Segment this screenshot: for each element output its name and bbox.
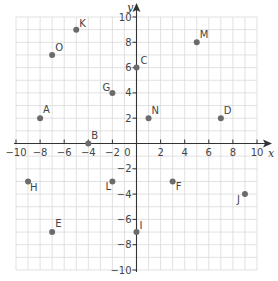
x-tick-label: −10 xyxy=(5,147,26,158)
point-f: F xyxy=(170,178,182,192)
point-label: B xyxy=(91,130,98,141)
point-o: O xyxy=(49,42,63,58)
point-i: I xyxy=(134,220,143,235)
point-label: L xyxy=(105,181,111,192)
point-marker-icon xyxy=(134,65,140,71)
y-tick-label: 10 xyxy=(119,12,132,23)
point-marker-icon xyxy=(109,90,115,96)
point-label: J xyxy=(236,194,240,205)
point-label: A xyxy=(43,104,50,115)
point-n: N xyxy=(146,105,159,121)
point-label: C xyxy=(141,55,148,66)
x-tick-label: −6 xyxy=(57,147,72,158)
y-tick-label: 4 xyxy=(125,87,131,98)
point-marker-icon xyxy=(49,229,55,235)
point-label: M xyxy=(200,29,209,40)
point-label: K xyxy=(79,18,86,29)
y-tick-label: −2 xyxy=(117,163,132,174)
point-marker-icon xyxy=(85,141,91,147)
point-c: C xyxy=(134,55,148,71)
x-tick-label: 4 xyxy=(182,147,188,158)
coordinate-plane: x y −10−8−6−4−20246810−10−8−6−4−2246810 … xyxy=(0,0,278,281)
point-h: H xyxy=(25,178,38,193)
point-marker-icon xyxy=(242,191,248,197)
point-m: M xyxy=(194,29,209,45)
point-l: L xyxy=(105,178,115,192)
x-tick-label: 10 xyxy=(251,147,264,158)
point-label: N xyxy=(152,105,159,116)
x-tick-label: 8 xyxy=(230,147,236,158)
point-g: G xyxy=(102,82,115,96)
point-marker-icon xyxy=(37,115,43,121)
point-label: F xyxy=(176,181,182,192)
x-tick-label: 0 xyxy=(124,147,130,158)
x-tick-label: 2 xyxy=(157,147,163,158)
point-a: A xyxy=(37,104,50,121)
point-k: K xyxy=(73,18,86,33)
y-tick-label: −8 xyxy=(117,239,132,250)
x-tick-label: −8 xyxy=(33,147,48,158)
x-tick-label: −4 xyxy=(81,147,96,158)
point-label: D xyxy=(224,105,232,116)
y-tick-label: 8 xyxy=(125,37,131,48)
y-tick-label: −10 xyxy=(110,265,131,276)
point-label: H xyxy=(30,182,38,193)
point-label: E xyxy=(55,218,61,229)
point-label: O xyxy=(55,42,63,53)
point-label: I xyxy=(140,220,143,231)
y-tick-label: −4 xyxy=(117,189,132,200)
y-tick-label: 6 xyxy=(125,62,131,73)
point-label: G xyxy=(102,82,110,93)
y-tick-label: −6 xyxy=(117,214,132,225)
x-tick-label: 6 xyxy=(206,147,212,158)
y-tick-label: 2 xyxy=(125,113,131,124)
point-d: D xyxy=(218,105,232,121)
x-axis-label: x xyxy=(268,147,275,160)
x-tick-label: −2 xyxy=(105,147,120,158)
point-e: E xyxy=(49,218,61,235)
point-j: J xyxy=(236,191,248,205)
